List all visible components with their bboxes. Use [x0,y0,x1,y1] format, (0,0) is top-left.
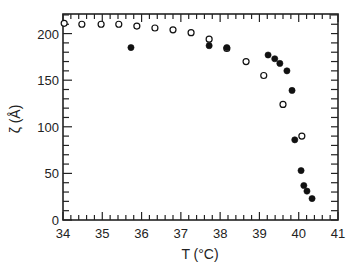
filled-data-point [292,137,298,143]
x-tick-label: 41 [331,226,345,241]
open-data-point [98,21,104,27]
open-data-point [261,73,267,79]
open-data-point [134,23,140,29]
filled-data-point [301,182,307,188]
open-data-point [243,59,249,65]
open-data-point [206,36,212,42]
plot-frame [63,14,338,220]
plot-border [63,14,338,220]
scatter-chart: 3435363738394041 050100150200 T (°C) ζ (… [0,0,356,272]
axis-ticks [63,14,338,220]
x-tick-label: 36 [134,226,148,241]
filled-data-point [206,43,212,49]
y-tick-label: 0 [52,213,59,228]
x-tick-label: 40 [291,226,305,241]
open-data-point [116,21,122,27]
x-tick-label: 39 [252,226,266,241]
x-tick-label: 37 [174,226,188,241]
y-tick-label: 150 [37,73,59,88]
open-data-point [152,25,158,31]
open-data-point [299,133,305,139]
x-tick-label: 35 [95,226,109,241]
filled-data-point [128,44,134,50]
x-tick-label: 38 [213,226,227,241]
data-points [61,20,315,201]
y-axis-title: ζ (Å) [7,105,23,134]
y-tick-labels: 050100150200 [37,27,59,228]
y-tick-label: 50 [45,166,59,181]
open-data-point [170,27,176,33]
filled-data-point [265,52,271,58]
open-data-point [61,20,67,26]
filled-data-point [284,68,290,74]
x-tick-label: 34 [56,226,70,241]
open-data-point [188,30,194,36]
filled-data-point [224,44,230,50]
filled-data-point [277,60,283,66]
open-data-point [79,21,85,27]
filled-data-point [289,87,295,93]
x-tick-labels: 3435363738394041 [56,226,345,241]
x-axis-title: T (°C) [181,246,218,262]
y-tick-label: 100 [37,120,59,135]
open-data-point [280,101,286,107]
filled-data-point [272,56,278,62]
filled-data-point [304,188,310,194]
filled-data-point [309,195,315,201]
filled-data-point [298,167,304,173]
y-tick-label: 200 [37,27,59,42]
